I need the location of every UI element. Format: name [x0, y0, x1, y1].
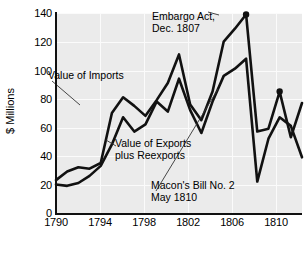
annotation-line: Dec. 1807 — [152, 23, 215, 35]
annotation-line: Value of Exports — [115, 138, 191, 150]
y-tick-label: 20 — [18, 180, 52, 191]
x-tick-label: 1790 — [34, 216, 78, 228]
annotation-line: Embargo Act, — [152, 11, 215, 23]
annotation-leader-lines — [52, 12, 219, 191]
annotation-value-of-imports: Value of Imports — [48, 70, 124, 82]
x-tick-label: 1810 — [254, 216, 298, 228]
x-tick-label: 1806 — [210, 216, 254, 228]
annotation-marker-dot — [276, 88, 282, 94]
annotation-marker-dot — [243, 11, 249, 17]
x-tick-label: 1794 — [78, 216, 122, 228]
annotation-line: plus Reexports — [115, 150, 191, 162]
chart-container: 140 120 100 80 60 40 20 0 $ Millions 179… — [0, 0, 308, 257]
annotation-macons-bill: Macon's Bill No. 2 May 1810 — [151, 180, 235, 203]
x-tick-label: 1798 — [122, 216, 166, 228]
x-axis-tick-labels: 1790 1794 1798 1802 1806 1810 — [0, 216, 308, 236]
y-tick-label: 120 — [18, 37, 52, 48]
y-axis-title: $ Millions — [4, 75, 16, 147]
annotation-line: Macon's Bill No. 2 — [151, 180, 235, 192]
y-tick-label: 80 — [18, 94, 52, 105]
y-tick-label: 40 — [18, 151, 52, 162]
y-tick-label: 100 — [18, 66, 52, 77]
annotation-line: May 1810 — [151, 192, 235, 204]
annotation-embargo-act: Embargo Act, Dec. 1807 — [152, 11, 215, 34]
y-tick-label: 60 — [18, 123, 52, 134]
x-tick-label: 1802 — [166, 216, 210, 228]
annotation-line: Value of Imports — [48, 70, 124, 82]
y-axis-line — [55, 12, 57, 214]
annotation-value-of-exports: Value of Exports plus Reexports — [115, 138, 191, 161]
y-tick-label: 140 — [18, 8, 52, 19]
x-axis-line — [55, 213, 302, 215]
